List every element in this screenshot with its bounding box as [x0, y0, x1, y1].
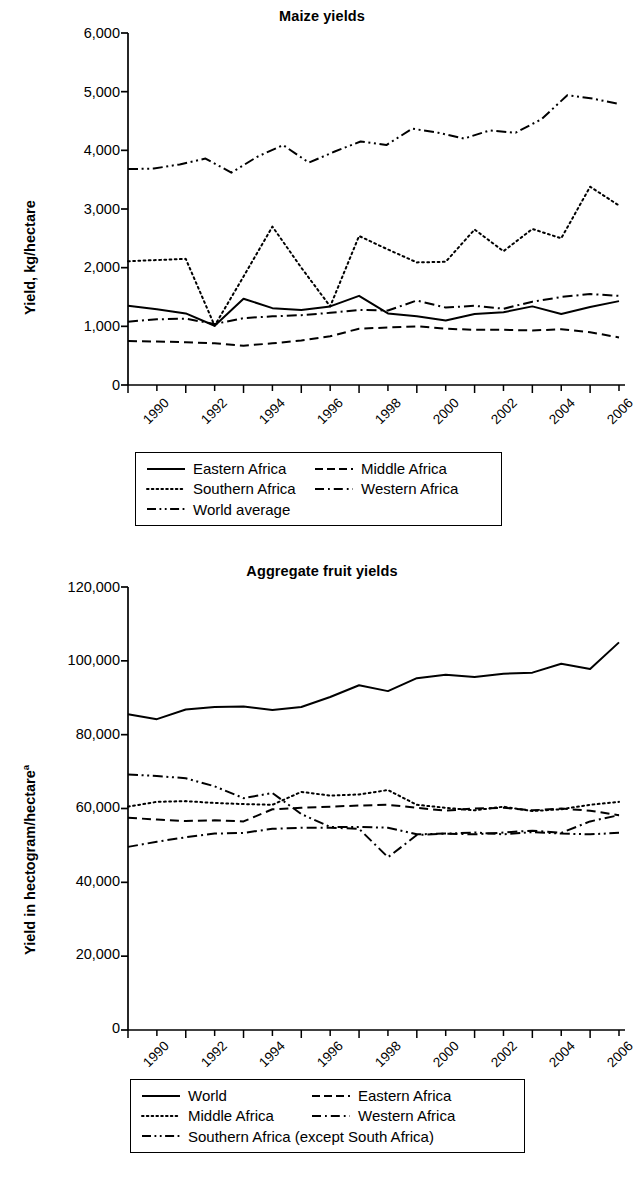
series-line-eastern-africa	[128, 805, 619, 822]
legend-fruit: World Eastern Africa Middle Africa Weste…	[130, 1079, 525, 1153]
legend-label: Western Africa	[358, 1107, 455, 1124]
legend-label: World average	[193, 501, 290, 518]
legend-label: Southern Africa	[193, 480, 296, 497]
aggregate-fruit-yields-figure: Aggregate fruit yields Yield in hectogra…	[0, 555, 644, 1192]
legend-label: Eastern Africa	[358, 1087, 451, 1104]
x-tick-label: 1992	[199, 396, 230, 427]
legend-entry-western-africa: Western Africa	[311, 1107, 512, 1124]
maize-yields-figure: Maize yields Yield, kg/hectare 6,000 5,0…	[0, 0, 644, 555]
legend-label: World	[188, 1087, 227, 1104]
series-line-southern-africa-except-south-africa	[128, 775, 619, 835]
x-tick-label: 2004	[547, 396, 578, 427]
x-tick-label: 2002	[489, 396, 520, 427]
maize-plot-area	[0, 0, 644, 400]
legend-swatch-dashdotdot-icon	[141, 1130, 181, 1142]
x-tick-label: 2000	[431, 396, 462, 427]
legend-swatch-dotted-icon	[146, 483, 186, 495]
legend-entry-eastern-africa: Eastern Africa	[311, 1087, 512, 1104]
legend-entry-world-average: World average	[146, 501, 314, 518]
series-line-world-average	[128, 95, 619, 172]
series-line-middle-africa	[128, 326, 619, 345]
x-tick-label: 1994	[257, 396, 288, 427]
legend-entry-middle-africa: Middle Africa	[314, 460, 489, 477]
legend-entry-southern-africa: Southern Africa	[146, 480, 314, 497]
legend-swatch-solid-icon	[146, 463, 186, 475]
series-line-middle-africa	[128, 790, 619, 811]
legend-entry-eastern-africa: Eastern Africa	[146, 460, 314, 477]
legend-swatch-dashdotdot-icon	[146, 503, 186, 515]
legend-swatch-dotted-icon	[141, 1110, 181, 1122]
legend-entry-western-africa: Western Africa	[314, 480, 489, 497]
legend-label: Middle Africa	[361, 460, 447, 477]
legend-label: Middle Africa	[188, 1107, 274, 1124]
x-tick-label: 1998	[373, 396, 404, 427]
legend-swatch-dashed-icon	[314, 463, 354, 475]
legend-swatch-dashdot-icon	[311, 1110, 351, 1122]
legend-label: Southern Africa (except South Africa)	[188, 1128, 434, 1145]
legend-label: Western Africa	[361, 480, 458, 497]
legend-entry-middle-africa: Middle Africa	[141, 1107, 311, 1124]
legend-entry-southern-africa: Southern Africa (except South Africa)	[141, 1128, 512, 1145]
x-tick-label: 1990	[141, 396, 172, 427]
legend-maize: Eastern Africa Middle Africa Southern Af…	[135, 452, 502, 526]
legend-label: Eastern Africa	[193, 460, 286, 477]
legend-entry-world: World	[141, 1087, 311, 1104]
legend-swatch-dashdot-icon	[314, 483, 354, 495]
fruit-plot-area	[0, 555, 644, 1055]
legend-swatch-solid-icon	[141, 1090, 181, 1102]
series-line-world	[128, 642, 619, 719]
x-tick-label: 2006	[605, 396, 636, 427]
legend-swatch-dashed-icon	[311, 1090, 351, 1102]
x-tick-label: 1996	[315, 396, 346, 427]
